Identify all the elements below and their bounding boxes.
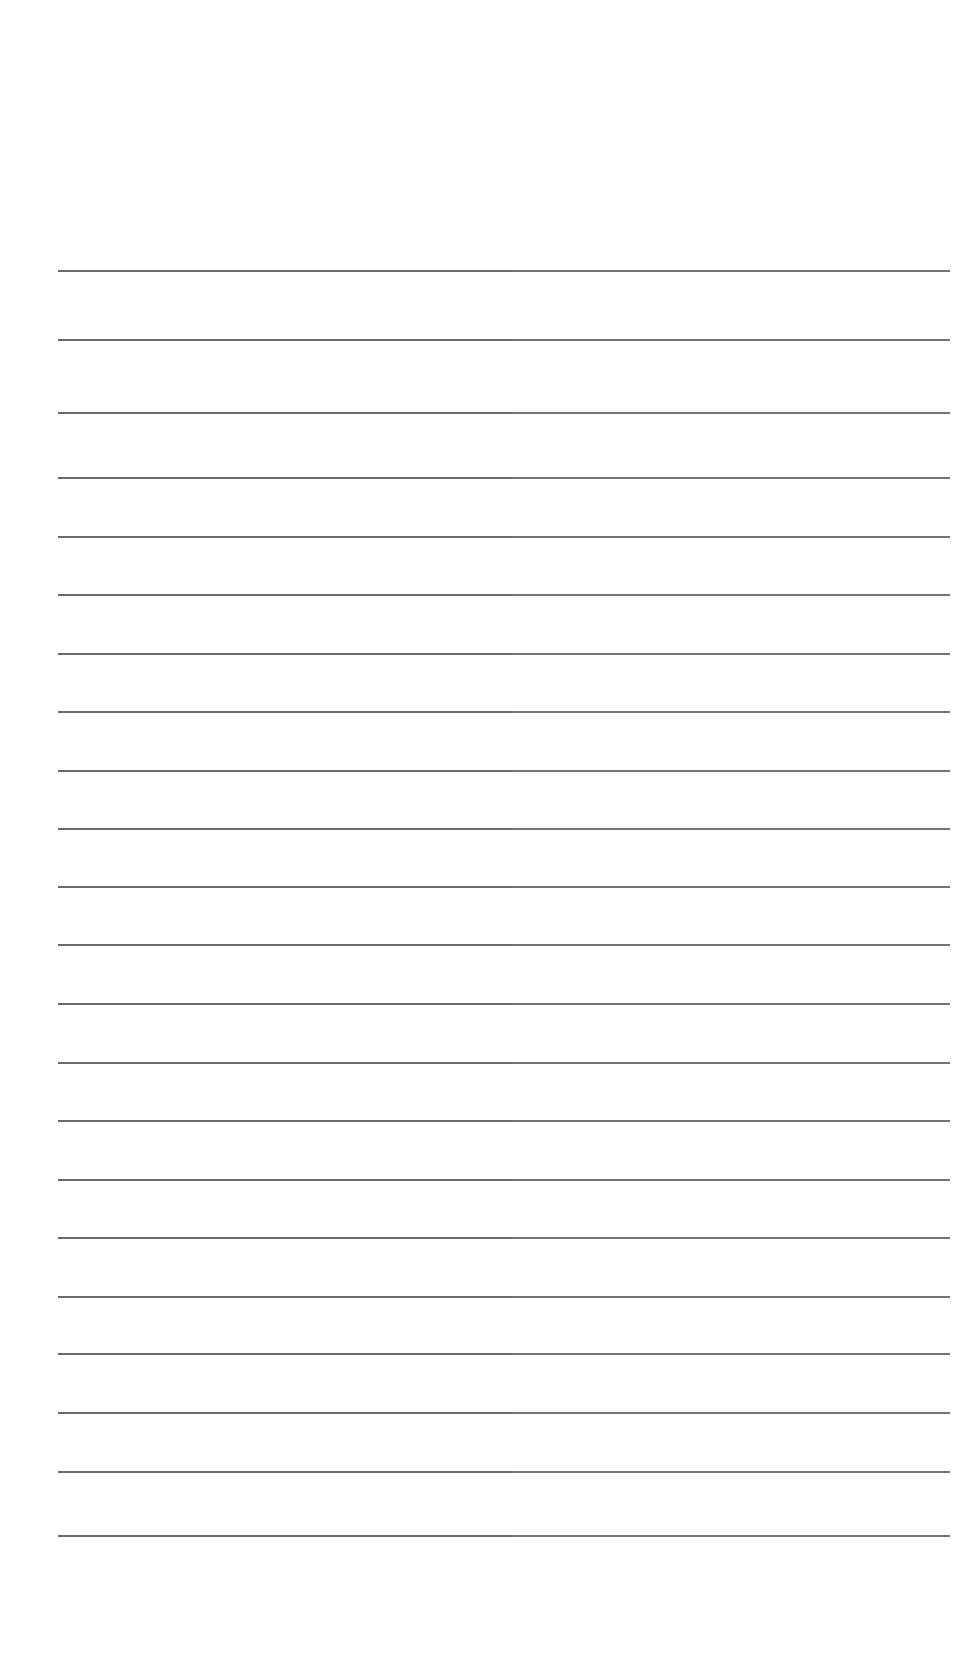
ruled-line bbox=[58, 594, 950, 596]
ruled-line bbox=[58, 339, 950, 341]
ruled-line bbox=[58, 536, 950, 538]
lined-paper-page bbox=[0, 0, 968, 1666]
ruled-line bbox=[58, 886, 950, 888]
ruled-line bbox=[58, 653, 950, 655]
ruled-line bbox=[58, 1179, 950, 1181]
ruled-line bbox=[58, 1120, 950, 1122]
ruled-line bbox=[58, 1062, 950, 1064]
ruled-line bbox=[58, 1296, 950, 1298]
ruled-line bbox=[58, 412, 950, 414]
ruled-line bbox=[58, 711, 950, 713]
ruled-line bbox=[58, 1471, 950, 1473]
ruled-line bbox=[58, 477, 950, 479]
ruled-line bbox=[58, 270, 950, 272]
ruled-line bbox=[58, 1535, 950, 1537]
ruled-line bbox=[58, 1237, 950, 1239]
ruled-line bbox=[58, 1412, 950, 1414]
ruled-line bbox=[58, 944, 950, 946]
ruled-line bbox=[58, 1353, 950, 1355]
ruled-line bbox=[58, 770, 950, 772]
ruled-line bbox=[58, 1003, 950, 1005]
ruled-line bbox=[58, 828, 950, 830]
